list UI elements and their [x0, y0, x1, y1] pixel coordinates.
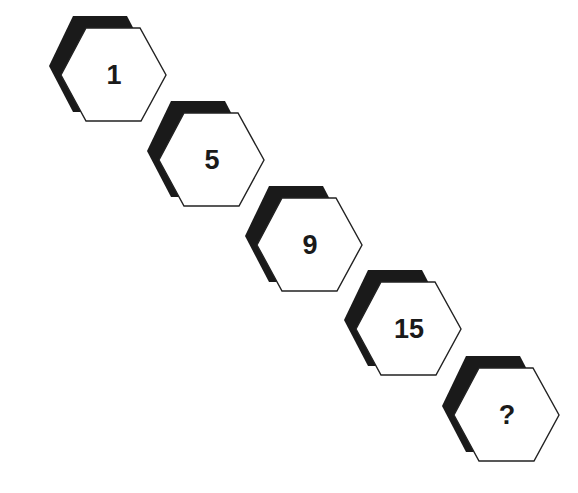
unknown-answer-mark: ?: [454, 368, 560, 462]
hexagon-tile-5: ?: [442, 356, 562, 464]
